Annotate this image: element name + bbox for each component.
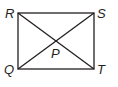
rectangle-diagram: R S T Q P [0, 0, 118, 87]
vertex-label-s: S [97, 6, 106, 21]
intersection-label-p: P [51, 46, 60, 61]
vertex-label-r: R [5, 6, 14, 21]
vertex-label-t: T [97, 62, 106, 77]
vertex-label-q: Q [4, 62, 14, 77]
